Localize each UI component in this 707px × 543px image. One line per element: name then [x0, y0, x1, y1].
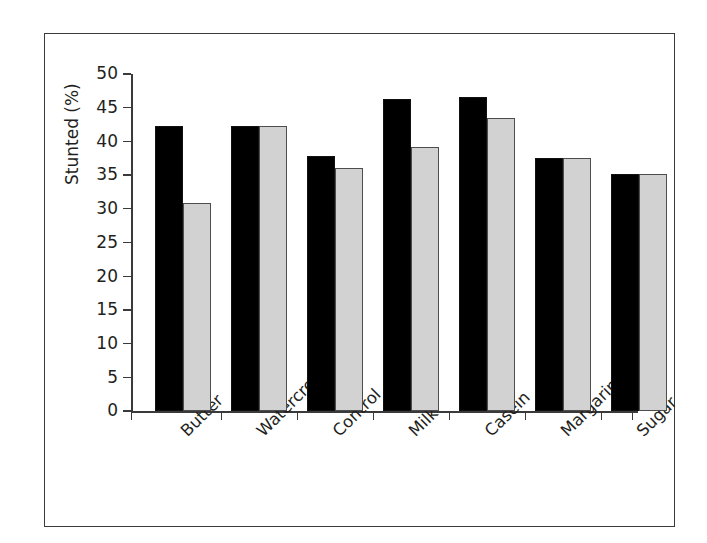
- bar-casein-series-1-black: [459, 97, 487, 411]
- y-tick-label-15: 15: [96, 298, 118, 320]
- bar-margarine-series-2-grey: [563, 158, 591, 411]
- y-tick-label-25: 25: [96, 231, 118, 253]
- x-tick-separator-3: [373, 411, 374, 420]
- bar-butter-series-2-grey: [183, 203, 211, 411]
- x-tick-separator-6: [601, 411, 602, 420]
- y-tick-label-45: 45: [96, 96, 118, 118]
- y-tick-label-30: 30: [96, 197, 118, 219]
- y-tick-label-35: 35: [96, 163, 118, 185]
- y-tick-label-20: 20: [96, 265, 118, 287]
- y-axis-line: [131, 74, 133, 411]
- y-tick-30: 30: [123, 208, 131, 209]
- y-tick-label-0: 0: [107, 399, 118, 421]
- bar-control-series-1-black: [307, 156, 335, 411]
- plot-area: 05101520253035404550: [131, 74, 638, 411]
- x-tick-end-0: [131, 411, 132, 420]
- y-tick-label-10: 10: [96, 332, 118, 354]
- x-tick-separator-5: [525, 411, 526, 420]
- y-axis-title: Stunted (%): [62, 83, 82, 185]
- y-tick-label-5: 5: [107, 366, 118, 388]
- bar-casein-series-2-grey: [487, 118, 515, 411]
- bar-milk-series-2-grey: [411, 147, 439, 411]
- y-tick-0: 0: [123, 410, 131, 411]
- bar-watercress-series-1-black: [231, 126, 259, 411]
- bar-control-series-2-grey: [335, 168, 363, 411]
- bar-milk-series-1-black: [383, 99, 411, 411]
- bar-butter-series-1-black: [155, 126, 183, 411]
- bar-margarine-series-1-black: [535, 158, 563, 411]
- x-tick-separator-1: [221, 411, 222, 420]
- x-tick-separator-2: [297, 411, 298, 420]
- y-tick-15: 15: [123, 309, 131, 310]
- y-tick-5: 5: [123, 377, 131, 378]
- bar-sugar-series-2-grey: [639, 174, 667, 411]
- y-tick-25: 25: [123, 242, 131, 243]
- y-tick-35: 35: [123, 174, 131, 175]
- figure-container: Stunted (%) 05101520253035404550 ButterW…: [0, 0, 707, 543]
- y-tick-45: 45: [123, 107, 131, 108]
- y-tick-50: 50: [123, 73, 131, 74]
- y-tick-label-50: 50: [96, 62, 118, 84]
- y-tick-40: 40: [123, 141, 131, 142]
- bar-watercress-series-2-grey: [259, 126, 287, 411]
- x-tick-separator-4: [449, 411, 450, 420]
- bar-sugar-series-1-black: [611, 174, 639, 411]
- x-tick-end-1: [632, 411, 633, 420]
- y-tick-label-40: 40: [96, 130, 118, 152]
- y-tick-10: 10: [123, 343, 131, 344]
- y-tick-20: 20: [123, 276, 131, 277]
